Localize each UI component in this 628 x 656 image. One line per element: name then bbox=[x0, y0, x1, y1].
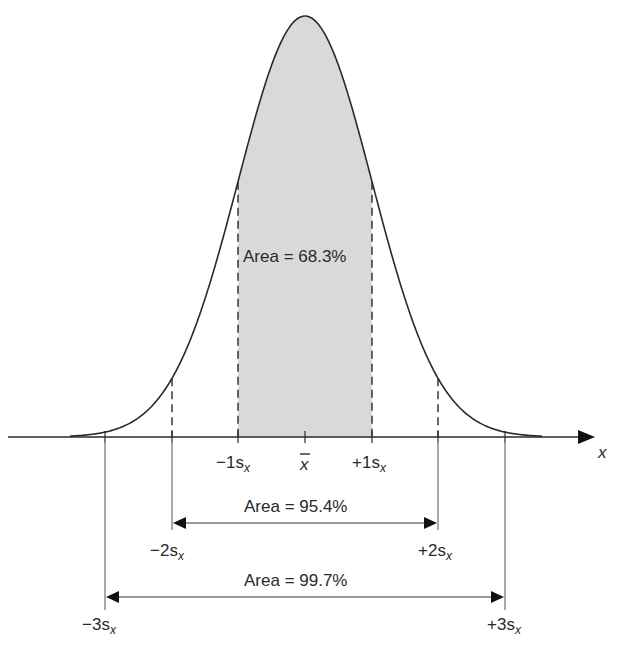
tick-label-minus2: −2sx bbox=[150, 541, 185, 563]
area-95-label: Area = 95.4% bbox=[244, 497, 348, 516]
x-axis-label: x bbox=[597, 443, 607, 462]
area-68-label: Area = 68.3% bbox=[243, 247, 347, 266]
arrow-right-icon bbox=[424, 517, 437, 529]
tick-label-minus1: −1sx bbox=[216, 453, 251, 475]
tick-label-plus1: +1sx bbox=[352, 453, 387, 475]
area-99-label: Area = 99.7% bbox=[244, 571, 348, 590]
x-axis-arrow-icon bbox=[578, 430, 595, 444]
arrow-left-icon bbox=[106, 591, 119, 603]
arrow-left-icon bbox=[173, 517, 186, 529]
arrow-right-icon bbox=[491, 591, 504, 603]
normal-distribution-diagram: x −1sx +1sx x Area = 68.3% Area = 95.4% … bbox=[0, 0, 628, 656]
shaded-area-one-sigma bbox=[238, 16, 372, 437]
tick-label-plus2: +2sx bbox=[418, 541, 453, 563]
tick-label-minus3: −3sx bbox=[82, 615, 117, 637]
mean-label: x bbox=[299, 455, 309, 474]
tick-label-plus3: +3sx bbox=[487, 615, 522, 637]
